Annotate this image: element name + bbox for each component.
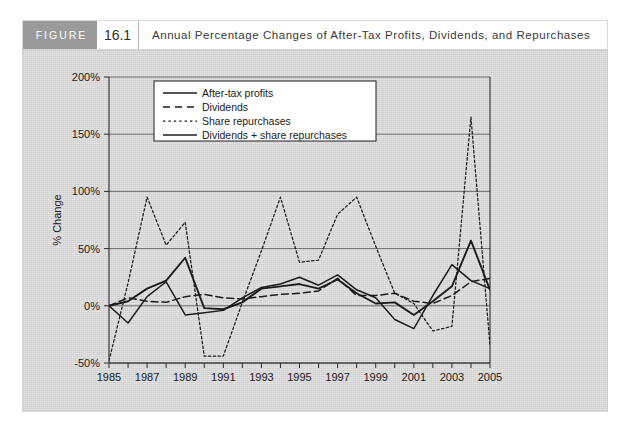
legend-label-1: Dividends <box>202 101 248 113</box>
chart-container: -50%0%50%100%150%200%1985198719891991199… <box>22 50 608 412</box>
legend-label-3: Dividends + share repurchases <box>202 129 347 141</box>
x-axis-tick-label: 1993 <box>249 371 273 383</box>
y-axis-tick-label: -50% <box>74 357 100 369</box>
figure-root: FIGURE 16.1 Annual Percentage Changes of… <box>0 0 637 434</box>
y-axis-tick-label: 200% <box>72 71 100 83</box>
y-axis-title: % Change <box>51 194 63 245</box>
series-line-share-repurchases <box>109 117 490 361</box>
y-axis-tick-label: 150% <box>72 128 100 140</box>
x-axis-tick-label: 2005 <box>478 371 502 383</box>
figure-number: 16.1 <box>97 21 139 49</box>
y-axis-tick-label: 100% <box>72 185 100 197</box>
y-axis-tick-label: 50% <box>78 243 100 255</box>
x-axis-tick-label: 1987 <box>135 371 159 383</box>
x-axis-tick-label: 1989 <box>173 371 197 383</box>
legend-label-0: After-tax profits <box>202 87 273 99</box>
x-axis-tick-label: 1999 <box>363 371 387 383</box>
figure-title: Annual Percentage Changes of After-Tax P… <box>139 21 607 49</box>
figure-badge: FIGURE <box>23 21 97 49</box>
x-axis-tick-label: 1995 <box>287 371 311 383</box>
series-line-after-tax-profits <box>109 265 490 329</box>
x-axis-tick-label: 1991 <box>211 371 235 383</box>
chart-legend: After-tax profitsDividendsShare repurcha… <box>154 81 376 141</box>
x-axis-tick-label: 2001 <box>402 371 426 383</box>
legend-label-2: Share repurchases <box>202 115 291 127</box>
figure-header: FIGURE 16.1 Annual Percentage Changes of… <box>22 20 608 50</box>
x-axis-tick-label: 1997 <box>325 371 349 383</box>
x-axis-tick-label: 1985 <box>97 371 121 383</box>
line-chart: -50%0%50%100%150%200%1985198719891991199… <box>22 50 608 412</box>
y-axis-tick-label: 0% <box>84 300 100 312</box>
series-group <box>109 117 490 361</box>
x-axis-tick-label: 2003 <box>440 371 464 383</box>
